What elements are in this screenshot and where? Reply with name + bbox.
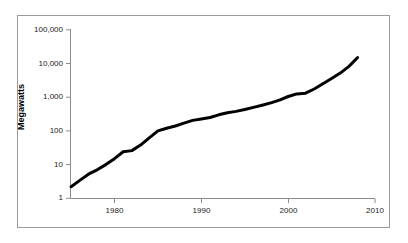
x-tick-label-1990: 1990 bbox=[193, 207, 211, 215]
x-tick-label-2010: 2010 bbox=[366, 207, 384, 215]
y-axis-title: Megawatts bbox=[16, 84, 26, 130]
y-tick-label-10: 10 bbox=[30, 161, 63, 169]
chart-figure: 100,000 10,000 1,000 100 10 1 1980 1990 … bbox=[0, 0, 408, 243]
x-tick-label-1980: 1980 bbox=[106, 207, 124, 215]
data-series-line bbox=[71, 58, 358, 187]
y-tick-label-100: 100 bbox=[30, 127, 63, 135]
x-tick-label-2000: 2000 bbox=[280, 207, 298, 215]
y-tick-label-10000: 10,000 bbox=[30, 60, 63, 68]
x-axis-ticks bbox=[115, 199, 376, 204]
y-axis-ticks bbox=[66, 30, 71, 199]
y-tick-label-1000: 1,000 bbox=[30, 93, 63, 101]
y-tick-label-1: 1 bbox=[30, 194, 63, 202]
y-tick-label-100000: 100,000 bbox=[30, 26, 63, 34]
